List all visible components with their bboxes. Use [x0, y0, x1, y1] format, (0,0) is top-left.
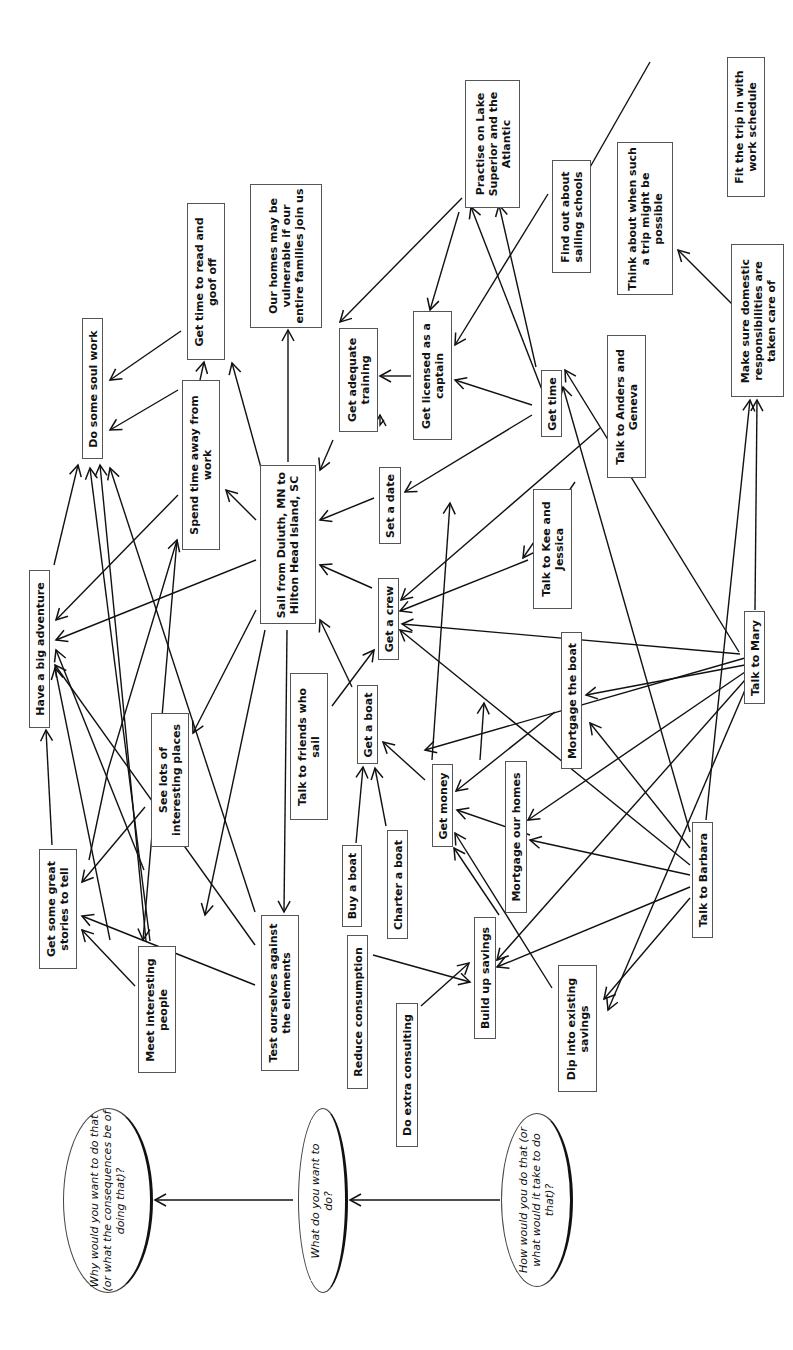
- node-homes-vuln: Our homes may be vulnerable if our entir…: [250, 184, 322, 328]
- edge-arrow: [56, 650, 144, 870]
- edge-arrow: [110, 390, 178, 430]
- node-label: Build up savings: [479, 918, 492, 1038]
- edge-arrow: [193, 610, 256, 733]
- edge-arrow: [82, 807, 145, 882]
- node-soul: Do some soul work: [82, 318, 103, 459]
- edge-arrow: [54, 465, 78, 565]
- node-label: Our homes may be vulnerable if our entir…: [267, 186, 306, 326]
- edge-arrow: [706, 400, 750, 820]
- edge-arrow: [46, 730, 52, 845]
- legend-label: Why would you want to do that (or what t…: [88, 1108, 127, 1293]
- node-domestic: Make sure domestic responsibilities are …: [731, 244, 784, 397]
- node-people: Meet interesting people: [138, 946, 176, 1073]
- edge-arrow: [455, 833, 552, 988]
- node-training: Get adequate training: [339, 328, 378, 432]
- edge-arrow: [200, 362, 204, 380]
- edge-arrow: [383, 742, 425, 780]
- node-label: Mortgage our homes: [510, 762, 523, 912]
- edge-arrow: [608, 690, 745, 1010]
- legend-label: How would you do that (or what would it …: [517, 1125, 556, 1275]
- node-label: Get some great stories to tell: [45, 850, 71, 968]
- node-label: Make sure domestic responsibilities are …: [738, 248, 777, 393]
- node-dip: Dip into existing savings: [558, 965, 597, 1092]
- edge-arrow: [678, 250, 733, 305]
- edge-arrow: [421, 963, 469, 1006]
- edge-arrow: [530, 840, 690, 875]
- node-friends: Talk to friends who sail: [290, 673, 328, 820]
- node-label: Get time: [545, 371, 558, 436]
- node-label: See lots of interesting places: [157, 715, 183, 845]
- node-money: Get money: [432, 764, 453, 847]
- node-think: Think about when such a trip might be po…: [617, 142, 673, 295]
- edge-arrow: [430, 212, 459, 310]
- edge-arrow: [110, 331, 181, 380]
- edge-arrow: [375, 768, 386, 826]
- node-label: Fit the trip in with work schedule: [733, 62, 759, 192]
- node-label: Dip into existing savings: [565, 966, 591, 1091]
- node-label: Get licensed as a captain: [420, 321, 446, 431]
- node-label: Talk to Anders and Geneva: [614, 342, 640, 472]
- node-barbara: Talk to Barbara: [692, 822, 713, 938]
- node-mort-boat: Mortgage the boat: [561, 632, 582, 769]
- edge-arrow: [455, 380, 532, 405]
- legend-q-what: What do you want to do?: [298, 1108, 348, 1293]
- node-label: Meet interesting people: [144, 947, 170, 1072]
- edge-arrow: [400, 560, 528, 611]
- node-anders: Talk to Anders and Geneva: [607, 335, 646, 478]
- edge-arrow: [471, 207, 551, 413]
- node-practise: Practise on Lake Superior and the Atlant…: [465, 80, 520, 208]
- edge-arrow: [90, 468, 150, 941]
- node-label: Talk to Barbara: [696, 823, 709, 938]
- node-date: Set a date: [379, 467, 401, 544]
- edge-arrow: [340, 198, 462, 322]
- node-licensed: Get licensed as a captain: [413, 311, 452, 440]
- node-adventure: Have a big adventure: [29, 570, 50, 728]
- edge-arrow: [205, 630, 265, 915]
- edge-arrow: [432, 503, 450, 760]
- edge-arrow: [56, 495, 178, 620]
- node-label: Spend time away from work: [188, 385, 214, 545]
- node-label: Think about when such a trip might be po…: [626, 146, 665, 291]
- node-label: Talk to friends who sail: [296, 682, 322, 812]
- edge-arrow: [82, 930, 135, 986]
- legend-label: What do you want to do?: [309, 1141, 335, 1261]
- edge-arrow: [454, 848, 499, 915]
- edge-arrow: [56, 560, 256, 640]
- node-label: Get time to read and goof off: [193, 212, 219, 352]
- goal-map-canvas: Why would you want to do that (or what t…: [0, 0, 793, 1350]
- node-read: Get time to read and goof off: [187, 203, 225, 360]
- node-sail: Sail from Duluth, MN to Hilton Head Isla…: [260, 465, 316, 624]
- node-label: Talk to Kee and Jessica: [540, 494, 566, 604]
- node-buy: Buy a boat: [342, 845, 362, 927]
- edge-arrow: [425, 658, 745, 750]
- node-label: Charter a boat: [391, 831, 404, 939]
- edge-arrow: [565, 370, 739, 652]
- node-boat: Get a boat: [357, 685, 378, 764]
- node-label: Do some soul work: [86, 319, 99, 459]
- node-label: Practise on Lake Superior and the Atlant…: [473, 82, 512, 207]
- node-places: See lots of interesting places: [151, 713, 189, 847]
- edge-arrow: [586, 665, 745, 695]
- edge-arrow: [455, 194, 548, 345]
- legend-q-why: Why would you want to do that (or what t…: [63, 1108, 153, 1293]
- node-label: Talk to Mary: [748, 613, 761, 703]
- edge-arrow: [320, 440, 333, 470]
- node-label: Get adequate training: [346, 333, 372, 428]
- node-stories: Get some great stories to tell: [39, 849, 77, 969]
- edge-arrow: [380, 415, 384, 425]
- node-schools: Find out about sailing schools: [552, 160, 591, 273]
- node-label: Buy a boat: [346, 846, 359, 926]
- node-charter: Charter a boat: [387, 830, 408, 939]
- edge-arrow: [373, 955, 470, 982]
- edge-arrow: [320, 565, 372, 588]
- node-label: Get a crew: [382, 579, 395, 659]
- edge-arrow: [499, 205, 536, 367]
- edge-arrow: [284, 630, 287, 912]
- edge-arrow: [590, 723, 690, 848]
- edge-arrow: [320, 498, 374, 520]
- node-label: Mortgage the boat: [565, 633, 578, 768]
- legend-q-how: How would you do that (or what would it …: [501, 1113, 573, 1287]
- edge-arrow: [226, 490, 256, 520]
- node-time: Get time: [541, 370, 562, 437]
- edge-arrow: [232, 363, 263, 475]
